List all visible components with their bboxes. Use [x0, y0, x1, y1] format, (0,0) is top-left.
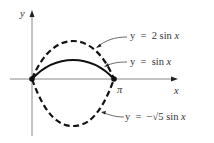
- curve-label-neg-sqrt5-sin-x: y = −√5 sin x: [125, 112, 186, 123]
- leader-arrow-icon: [101, 111, 106, 115]
- leader-line-neg-sqrt5: [104, 113, 124, 117]
- curve-label-text: y = 2 sin: [130, 30, 174, 41]
- curve-label-text: y = sin: [130, 56, 167, 67]
- curve-label-var: x: [174, 30, 179, 41]
- leader-line-sin-x: [106, 62, 127, 66]
- curve-label-var: x: [181, 111, 186, 122]
- curve-label-sin-x: y = sin x: [130, 57, 171, 68]
- curve-label-text: y = −√5 sin: [125, 111, 181, 122]
- origin-point: [29, 76, 35, 82]
- x-axis-arrow-icon: [171, 77, 178, 82]
- y-axis-arrow-icon: [30, 10, 35, 17]
- curve-neg-sqrt5-sin-x: [32, 79, 114, 126]
- curve-label-var: x: [167, 56, 172, 67]
- leader-line-2-sin-x: [97, 37, 127, 47]
- curve-label-2-sin-x: y = 2 sin x: [130, 31, 179, 42]
- pi-tick-label: π: [117, 85, 122, 96]
- x-axis-label: x: [174, 86, 179, 97]
- curve-sin-x: [32, 60, 114, 79]
- pi-point: [111, 76, 117, 82]
- y-axis-label: y: [20, 9, 25, 20]
